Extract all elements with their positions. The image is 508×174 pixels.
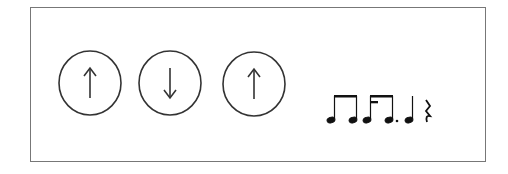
stroke-up-2	[222, 51, 286, 117]
rhythm-notation	[326, 92, 456, 126]
up-arrow-icon	[222, 51, 286, 117]
music-notes-icon	[326, 92, 456, 126]
stroke-down	[138, 50, 202, 116]
down-arrow-icon	[138, 50, 202, 116]
stroke-up-1	[58, 50, 122, 116]
up-arrow-icon	[58, 50, 122, 116]
